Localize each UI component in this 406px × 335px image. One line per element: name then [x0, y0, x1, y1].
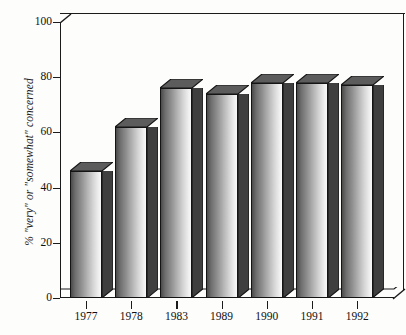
bar-top-face [296, 74, 339, 83]
bar-side-face [102, 171, 113, 298]
bar [115, 118, 158, 298]
bar [296, 74, 339, 298]
x-axis-tick-mark [86, 301, 87, 309]
bar [70, 162, 113, 298]
bar [341, 76, 384, 298]
x-axis-tick-mark [176, 301, 177, 309]
bar-front-face [70, 171, 102, 298]
bar-side-face [147, 127, 158, 298]
bar-side-face [238, 94, 249, 298]
bar-series [0, 0, 406, 335]
bar-top-face [341, 76, 384, 85]
bar-front-face [341, 85, 373, 298]
bar-side-face [283, 83, 294, 298]
bar-front-face [115, 127, 147, 298]
bar-top-face [206, 85, 249, 94]
bar [160, 79, 203, 298]
bar-side-face [328, 83, 339, 298]
x-axis-tick-mark [131, 301, 132, 309]
x-axis-tick-label: 1992 [330, 311, 384, 323]
bar [206, 85, 249, 298]
bar-top-face [251, 74, 294, 83]
bar-top-face [115, 118, 158, 127]
bar [251, 74, 294, 298]
bar-front-face [251, 83, 283, 298]
bar-front-face [296, 83, 328, 298]
x-axis-tick-mark [267, 301, 268, 309]
bar-front-face [160, 88, 192, 298]
x-axis-tick-mark [222, 301, 223, 309]
x-axis-tick-mark [312, 301, 313, 309]
bar-top-face [160, 79, 203, 88]
bar-front-face [206, 94, 238, 298]
bar-side-face [192, 88, 203, 298]
bar-top-face [70, 162, 113, 171]
bar-chart: % "very" or "somewhat" concerned 0204060… [0, 0, 406, 335]
x-axis-tick-mark [357, 301, 358, 309]
bar-side-face [373, 85, 384, 298]
